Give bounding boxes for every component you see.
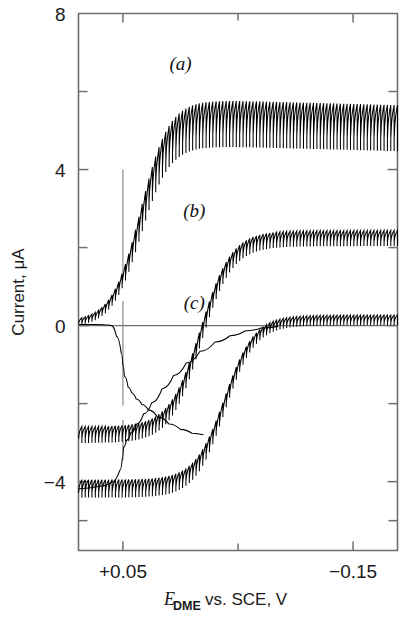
smooth-branch-traces	[79, 324, 279, 488]
plot-frame	[79, 14, 398, 551]
curve-label-c: (c)	[184, 292, 205, 314]
y-tick-label: 0	[55, 316, 66, 337]
y-axis-tick-labels: 840−4	[44, 4, 66, 493]
curve-annotations: (a)(b)(c)	[169, 53, 205, 314]
polarogram-figure: 840−4 +0.05−0.15 Current, μA E DME vs. S…	[0, 0, 405, 637]
y-axis-title-text: Current, μA	[9, 248, 28, 336]
x-axis-tick-labels: +0.05−0.15	[99, 561, 377, 582]
x-tick-label: −0.15	[329, 561, 377, 582]
trace-b	[79, 230, 398, 443]
curve-label-b: (b)	[183, 200, 205, 222]
x-axis-title-rest: vs. SCE, V	[205, 590, 288, 609]
curve-label-a: (a)	[169, 53, 191, 75]
y-tick-label: 4	[55, 160, 66, 181]
x-axis-title-subscript: DME	[173, 599, 201, 613]
x-axis-ticks	[123, 14, 353, 551]
x-axis-title: E DME vs. SCE, V	[163, 589, 288, 613]
trace-a	[79, 101, 398, 324]
y-tick-label: 8	[55, 4, 66, 25]
y-tick-label: −4	[44, 472, 66, 493]
x-tick-label: +0.05	[99, 561, 147, 582]
y-axis-ticks	[79, 92, 398, 521]
y-axis-title: Current, μA	[9, 248, 28, 336]
smooth-branch-lower	[79, 326, 279, 488]
figure-container: 840−4 +0.05−0.15 Current, μA E DME vs. S…	[0, 0, 405, 637]
polarographic-traces	[79, 101, 398, 498]
trace-c	[79, 315, 398, 498]
